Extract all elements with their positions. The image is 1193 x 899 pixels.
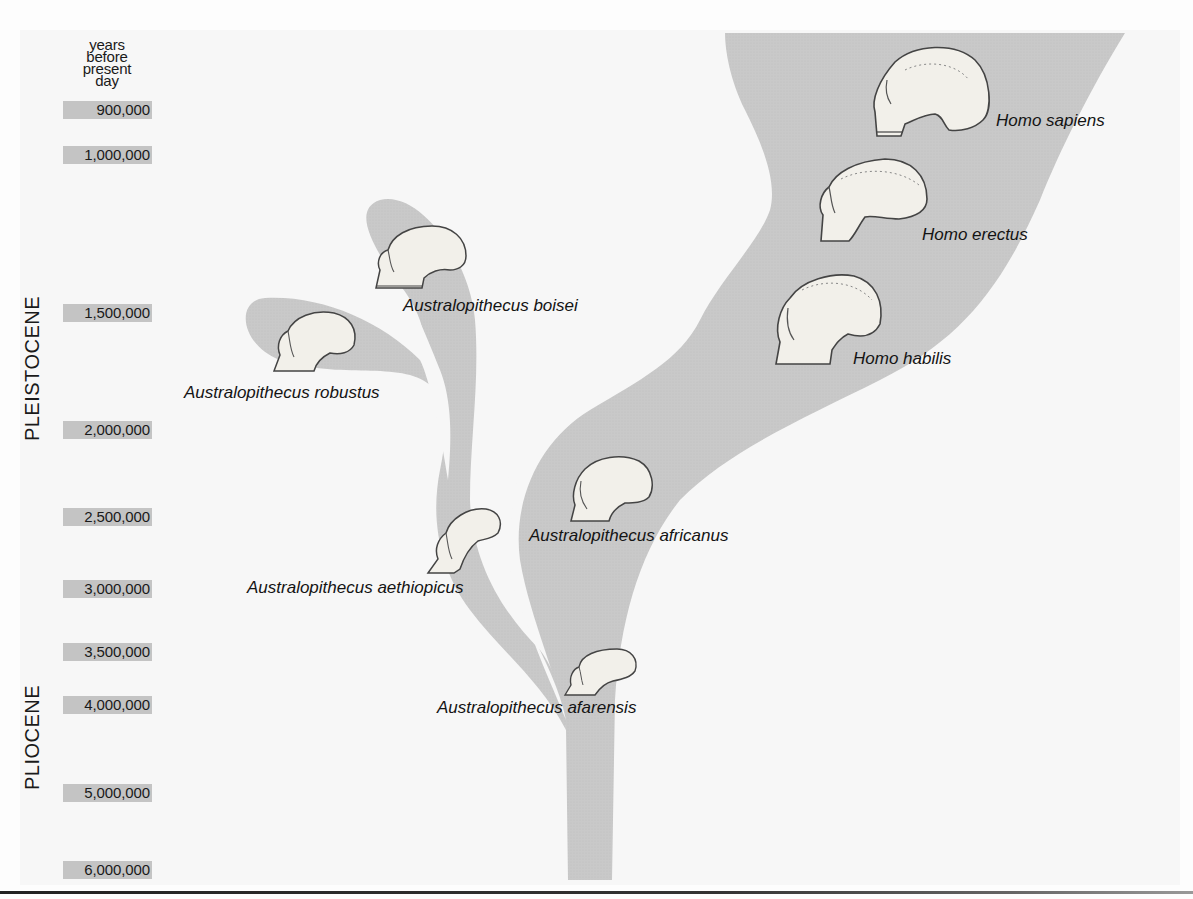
homo-erectus-skull-icon [815, 155, 935, 245]
australopithecus-africanus-skull-icon [567, 451, 657, 526]
label-australopithecus-africanus: Australopithecus africanus [529, 526, 728, 546]
label-australopithecus-boisei: Australopithecus boisei [403, 296, 578, 316]
time-tick: 3,500,000 [63, 643, 152, 661]
label-australopithecus-aethiopicus: Australopithecus aethiopicus [247, 578, 463, 598]
label-homo-habilis: Homo habilis [853, 349, 951, 369]
time-tick: 6,000,000 [63, 861, 152, 879]
australopithecus-robustus-skull-icon [270, 305, 360, 375]
bottom-rule-divider [0, 891, 1193, 894]
label-australopithecus-afarensis: Australopithecus afarensis [437, 698, 636, 718]
australopithecus-boisei-skull-icon [372, 222, 472, 292]
homo-sapiens-skull-icon [865, 40, 995, 140]
australopithecus-aethiopicus-skull-icon [424, 503, 504, 578]
time-tick: 2,000,000 [63, 421, 152, 439]
evolutionary-tree-branches [0, 0, 1193, 899]
time-tick: 900,000 [63, 101, 152, 119]
epoch-pleistocene: PLEISTOCENE [21, 294, 44, 444]
australopithecus-afarensis-skull-icon [563, 645, 643, 700]
axis-header-line: day [62, 75, 152, 87]
label-homo-erectus: Homo erectus [922, 225, 1028, 245]
axis-header: years before present day [62, 39, 152, 87]
epoch-pliocene: PLIOCENE [21, 683, 44, 793]
time-tick: 1,000,000 [63, 146, 152, 164]
label-homo-sapiens: Homo sapiens [996, 111, 1105, 131]
label-australopithecus-robustus: Australopithecus robustus [184, 383, 380, 403]
time-tick: 4,000,000 [63, 696, 152, 714]
time-tick: 3,000,000 [63, 580, 152, 598]
time-tick: 2,500,000 [63, 508, 152, 526]
time-tick: 1,500,000 [63, 304, 152, 322]
time-tick: 5,000,000 [63, 784, 152, 802]
